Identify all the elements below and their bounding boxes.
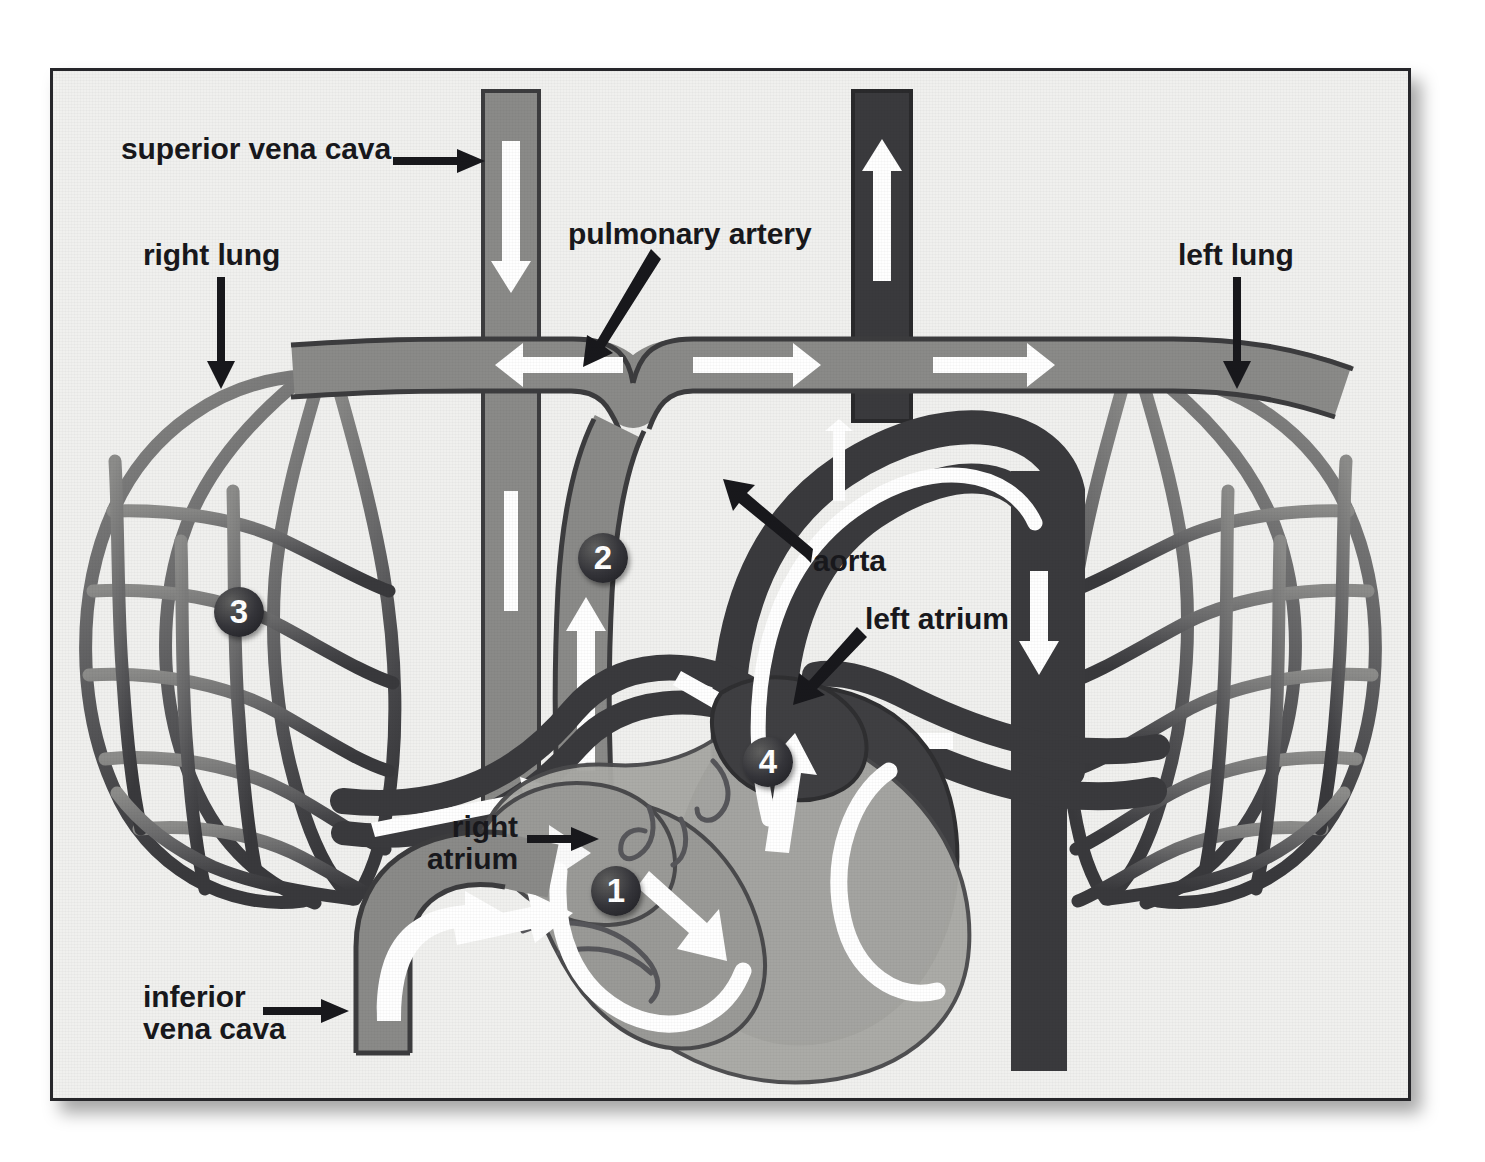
marker-4-number: 4 [759, 745, 777, 778]
marker-2-number: 2 [594, 541, 612, 574]
label-aorta: aorta [813, 545, 886, 577]
marker-1-number: 1 [607, 874, 625, 907]
marker-3-number: 3 [230, 595, 248, 628]
label-right-atrium: right atrium [373, 811, 518, 875]
diagram-stage: superior vena cava right lung pulmonary … [0, 0, 1485, 1162]
svc-flow-arrow-lower [504, 491, 518, 611]
descending-aorta [1011, 471, 1067, 1071]
marker-1: 1 [591, 866, 641, 916]
label-inferior-vena-cava: inferior vena cava [143, 981, 286, 1045]
label-pulmonary-artery: pulmonary artery [568, 218, 811, 250]
marker-4: 4 [743, 737, 793, 787]
label-right-lung: right lung [143, 239, 280, 271]
label-left-atrium: left atrium [865, 603, 1009, 635]
diagram-plate: superior vena cava right lung pulmonary … [50, 68, 1411, 1101]
label-left-lung: left lung [1178, 239, 1294, 271]
label-superior-vena-cava: superior vena cava [121, 133, 391, 165]
marker-2: 2 [578, 533, 628, 583]
marker-3: 3 [214, 587, 264, 637]
left-lung-capillary-bed [1066, 371, 1375, 903]
